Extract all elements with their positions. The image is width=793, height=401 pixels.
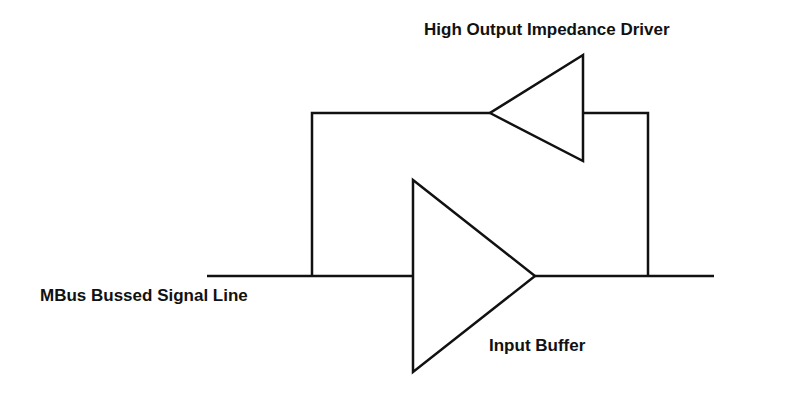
- bus-label: MBus Bussed Signal Line: [40, 286, 248, 306]
- feedback-wire-left: [312, 113, 490, 276]
- driver-label: High Output Impedance Driver: [424, 20, 670, 40]
- input-buffer-label: Input Buffer: [489, 336, 585, 356]
- feedback-wire-right: [583, 113, 648, 276]
- circuit-diagram: [0, 0, 793, 401]
- driver-triangle: [490, 55, 583, 161]
